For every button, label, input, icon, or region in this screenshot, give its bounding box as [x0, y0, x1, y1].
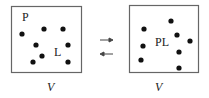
- equilibrium-diagram: P L V PL V: [0, 0, 209, 98]
- forward-arrow-icon: [100, 38, 113, 42]
- reverse-arrow-icon: [100, 52, 113, 56]
- label-L: L: [54, 45, 61, 59]
- molecule-dot: [174, 32, 179, 37]
- right-box-group: PL V: [130, 6, 199, 95]
- molecule-dot: [187, 38, 192, 43]
- equilibrium-arrows: [100, 38, 113, 56]
- molecule-dot: [176, 49, 181, 54]
- molecule-dot: [19, 31, 24, 36]
- left-volume-label: V: [47, 80, 56, 94]
- label-PL: PL: [155, 35, 169, 49]
- molecule-dot: [33, 42, 38, 47]
- molecule-dot: [140, 43, 145, 48]
- molecule-dot: [39, 53, 44, 58]
- left-box-group: P L V: [12, 7, 82, 95]
- molecule-dot: [65, 42, 70, 47]
- molecule-dot: [141, 26, 146, 31]
- left-dots: [19, 26, 70, 64]
- label-P: P: [22, 10, 29, 24]
- molecule-dot: [60, 26, 65, 31]
- molecule-dot: [138, 57, 143, 62]
- molecule-dot: [30, 59, 35, 64]
- molecule-dot: [168, 18, 173, 23]
- molecule-dot: [176, 65, 181, 70]
- right-volume-label: V: [155, 80, 164, 94]
- molecule-dot: [41, 26, 46, 31]
- molecule-dot: [65, 59, 70, 64]
